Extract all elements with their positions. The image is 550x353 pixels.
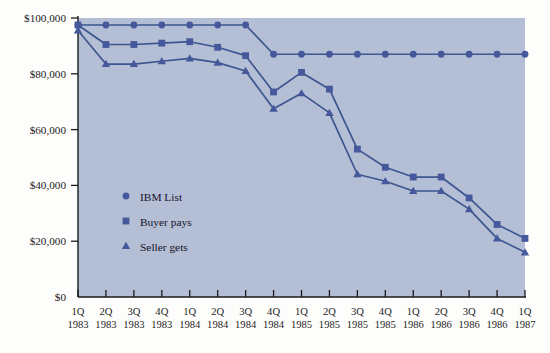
y-axis-ticks (71, 18, 78, 241)
marker-square (494, 221, 501, 228)
marker-circle (438, 51, 445, 58)
legend-label: Buyer pays (140, 216, 192, 228)
x-axis-year-label: 1986 (431, 319, 452, 330)
x-axis-quarter-label: 1Q (295, 306, 308, 317)
marker-square (130, 41, 137, 48)
x-axis-quarter-label: 3Q (239, 306, 252, 317)
marker-circle (522, 51, 529, 58)
marker-square (186, 38, 193, 45)
x-axis-year-label: 1983 (67, 319, 88, 330)
y-axis-labels: $0$20,000$40,000$60,000$80,000$100,000 (24, 12, 66, 303)
y-axis-tick-label: $60,000 (30, 124, 67, 136)
marker-circle (410, 51, 417, 58)
marker-square (270, 89, 277, 96)
x-axis-quarter-label: 3Q (463, 306, 476, 317)
x-axis-year-label: 1984 (207, 319, 229, 330)
marker-square (326, 86, 333, 93)
marker-square (354, 146, 361, 153)
marker-square (103, 41, 110, 48)
x-axis-labels: 1Q19832Q19833Q19834Q19831Q19842Q19843Q19… (67, 306, 535, 330)
x-axis-quarter-label: 1Q (72, 306, 85, 317)
marker-circle (494, 51, 501, 58)
y-axis-tick-label: $40,000 (30, 179, 67, 191)
x-axis-quarter-label: 1Q (183, 306, 196, 317)
marker-circle (326, 51, 333, 58)
x-axis-year-label: 1985 (291, 319, 312, 330)
marker-square (522, 235, 529, 242)
x-axis-year-label: 1986 (459, 319, 480, 330)
x-axis-quarter-label: 2Q (435, 306, 448, 317)
marker-square (382, 164, 389, 171)
marker-circle (214, 22, 221, 29)
x-axis-year-label: 1986 (486, 319, 507, 330)
legend-label: Seller gets (140, 241, 188, 253)
x-axis-quarter-label: 4Q (491, 306, 504, 317)
x-axis-year-label: 1985 (375, 319, 396, 330)
x-axis-year-label: 1984 (235, 319, 257, 330)
x-axis-year-label: 1983 (123, 319, 144, 330)
marker-square (466, 195, 473, 202)
chart-container: $0$20,000$40,000$60,000$80,000$100,000 1… (0, 0, 550, 353)
x-axis-quarter-label: 1Q (519, 306, 532, 317)
plot-background (78, 18, 525, 297)
x-axis-quarter-label: 2Q (323, 306, 336, 317)
x-axis-quarter-label: 4Q (379, 306, 392, 317)
marker-circle (158, 22, 165, 29)
x-axis-year-label: 1985 (319, 319, 340, 330)
marker-square (214, 44, 221, 51)
marker-circle (242, 22, 249, 29)
x-axis-year-label: 1985 (347, 319, 368, 330)
x-axis-quarter-label: 4Q (155, 306, 168, 317)
marker-square (298, 69, 305, 76)
x-axis-year-label: 1983 (151, 319, 172, 330)
x-axis-quarter-label: 1Q (407, 306, 420, 317)
marker-circle (270, 51, 277, 58)
y-axis-tick-label: $100,000 (24, 12, 66, 24)
marker-square (410, 174, 417, 181)
x-axis-year-label: 1986 (403, 319, 424, 330)
y-axis-tick-label: $20,000 (30, 235, 67, 247)
x-axis-quarter-label: 3Q (127, 306, 140, 317)
x-axis-quarter-label: 2Q (211, 306, 224, 317)
x-axis-year-label: 1987 (514, 319, 535, 330)
x-axis-year-label: 1984 (179, 319, 201, 330)
marker-square (242, 52, 249, 59)
marker-square (438, 174, 445, 181)
x-axis-year-label: 1984 (263, 319, 285, 330)
marker-circle (186, 22, 193, 29)
legend-marker-square (123, 218, 130, 225)
marker-square (158, 40, 165, 47)
legend-marker-circle (123, 193, 130, 200)
marker-circle (298, 51, 305, 58)
x-axis-year-label: 1983 (95, 319, 116, 330)
marker-circle (103, 22, 110, 29)
x-axis-quarter-label: 2Q (99, 306, 112, 317)
marker-circle (354, 51, 361, 58)
marker-circle (382, 51, 389, 58)
x-axis-quarter-label: 3Q (351, 306, 364, 317)
legend-label: IBM List (140, 191, 183, 203)
y-axis-tick-label: $80,000 (30, 68, 67, 80)
x-axis-quarter-label: 4Q (267, 306, 280, 317)
marker-circle (130, 22, 137, 29)
quarterly-price-line-chart: $0$20,000$40,000$60,000$80,000$100,000 1… (0, 0, 550, 353)
y-axis-tick-label: $0 (55, 291, 67, 303)
marker-circle (466, 51, 473, 58)
